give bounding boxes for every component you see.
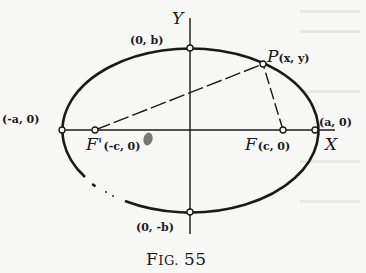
bleed-through (300, 10, 360, 203)
vertex-right-marker (312, 127, 318, 133)
ellipse-gap-dots (92, 183, 114, 197)
vertex-right-label: (a, 0) (319, 116, 352, 129)
focal-radius-left (95, 64, 263, 130)
point-p-marker (260, 61, 266, 67)
covertex-bottom-marker (187, 209, 193, 215)
point-p-label: P(x, y) (266, 46, 309, 66)
focus-left-marker (92, 127, 98, 133)
vertex-left-marker (59, 127, 65, 133)
x-axis-label: X (323, 134, 338, 154)
covertex-top-marker (187, 45, 193, 51)
y-axis-label: Y (172, 8, 185, 28)
ellipse-figure: Y X (0, b) (0, -b) (-a, 0) (a, 0) F'(-c,… (0, 0, 366, 273)
origin-mark (142, 132, 154, 147)
vertex-left-label: (-a, 0) (2, 113, 39, 126)
focus-right-label: F(c, 0) (244, 134, 290, 154)
figure-caption: FIG.55 (146, 249, 207, 269)
focal-radius-right (263, 64, 283, 130)
covertex-bottom-label: (0, -b) (136, 221, 174, 234)
covertex-top-label: (0, b) (130, 34, 163, 47)
focus-left-label: F'(-c, 0) (85, 134, 140, 154)
focus-right-marker (280, 127, 286, 133)
